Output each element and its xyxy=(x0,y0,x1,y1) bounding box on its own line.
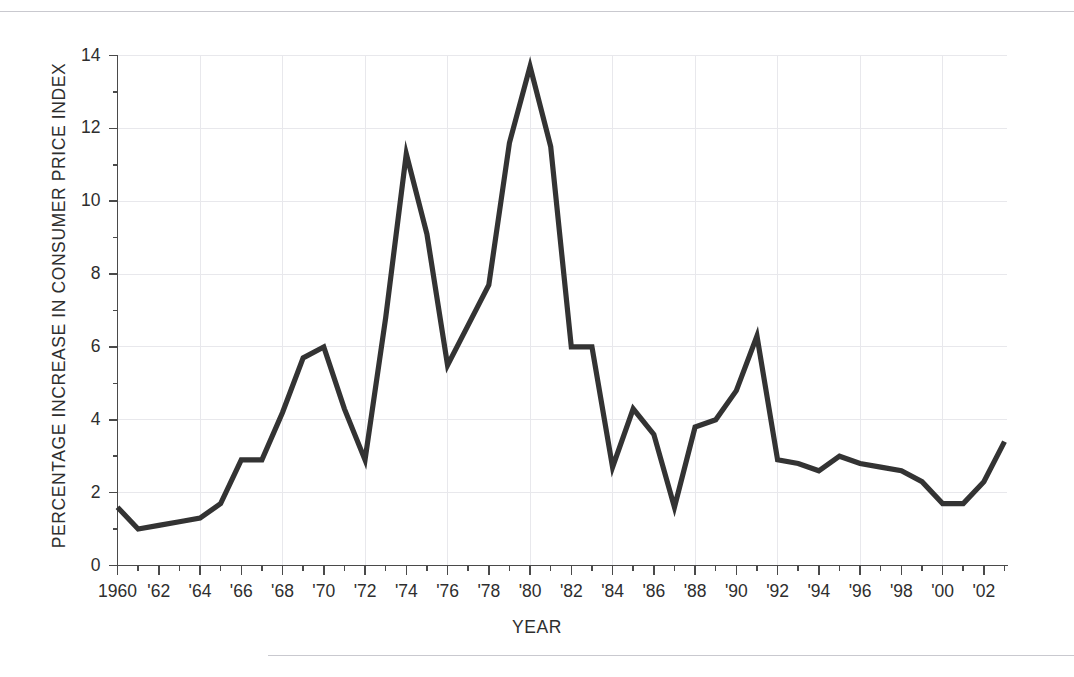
x-tick-label: '68 xyxy=(271,583,294,601)
x-tick-label: '92 xyxy=(766,583,789,601)
y-tick-label: 6 xyxy=(61,338,101,356)
x-tick-label: '90 xyxy=(725,583,748,601)
chart-page: PERCENTAGE INCREASE IN CONSUMER PRICE IN… xyxy=(0,0,1074,677)
data-series-cpi xyxy=(118,66,1005,529)
x-tick-label: '00 xyxy=(931,583,954,601)
y-tick-label: 14 xyxy=(61,47,101,65)
x-tick-label: '98 xyxy=(890,583,913,601)
tick-marks xyxy=(109,56,1005,575)
y-tick-label: 12 xyxy=(61,119,101,137)
x-tick-label: '70 xyxy=(312,583,335,601)
x-tick-label: '82 xyxy=(560,583,583,601)
cpi-line-path xyxy=(118,66,1005,529)
y-tick-label: 2 xyxy=(61,484,101,502)
x-tick-label: '02 xyxy=(972,583,995,601)
plot-canvas xyxy=(0,0,1074,677)
x-tick-label: '88 xyxy=(684,583,707,601)
cpi-line-chart: PERCENTAGE INCREASE IN CONSUMER PRICE IN… xyxy=(0,0,1074,677)
x-tick-label: '94 xyxy=(807,583,830,601)
x-tick-label: '96 xyxy=(849,583,872,601)
x-tick-label: '84 xyxy=(601,583,624,601)
x-tick-label: '62 xyxy=(147,583,170,601)
x-tick-label: '78 xyxy=(477,583,500,601)
x-tick-label: '64 xyxy=(189,583,212,601)
y-tick-label: 0 xyxy=(61,557,101,575)
axis-lines xyxy=(118,55,1008,566)
x-tick-label: '76 xyxy=(436,583,459,601)
x-tick-label: '86 xyxy=(642,583,665,601)
x-tick-label: '66 xyxy=(230,583,253,601)
x-tick-label: '74 xyxy=(395,583,418,601)
gridlines xyxy=(118,56,1007,566)
x-tick-label: 1960 xyxy=(98,583,137,601)
x-tick-label: '72 xyxy=(354,583,377,601)
y-tick-label: 4 xyxy=(61,411,101,429)
y-tick-label: 10 xyxy=(61,192,101,210)
x-tick-label: '80 xyxy=(519,583,542,601)
y-tick-label: 8 xyxy=(61,265,101,283)
